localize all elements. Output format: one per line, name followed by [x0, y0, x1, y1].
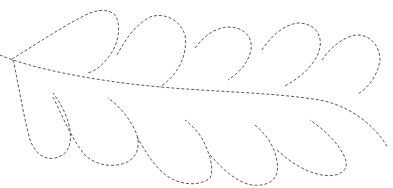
top-plume-3 — [195, 27, 251, 80]
top-plume-2 — [117, 16, 186, 87]
top-plume-5 — [322, 35, 380, 94]
top-plume-4 — [262, 23, 320, 86]
top-plume-1 — [12, 10, 119, 73]
feather-pattern — [0, 0, 393, 188]
bottom-plume-5 — [277, 120, 346, 176]
bottom-plume-2 — [53, 97, 138, 165]
bottom-plume-1 — [13, 60, 70, 158]
bottom-plume-4 — [210, 125, 278, 185]
bottom-plume-3 — [137, 120, 212, 184]
